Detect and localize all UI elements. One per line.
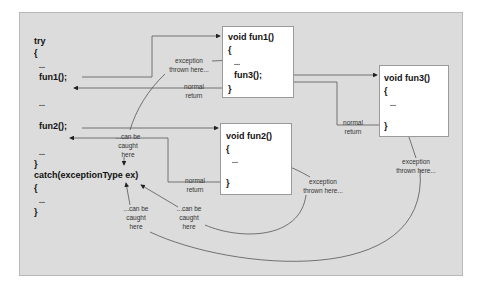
catch-ellipsis: ... <box>39 195 45 207</box>
fun3-call: fun3(); <box>234 69 262 81</box>
fun1-box: void fun1() { ... fun3(); } <box>222 26 294 98</box>
catch-open-brace: { <box>34 182 38 194</box>
can-be-caught-left-label: ...can be caught here <box>118 204 154 231</box>
fun3-close-brace: } <box>384 120 388 132</box>
fun1-open-brace: { <box>228 44 232 56</box>
exception-thrown-fun1-label: exception thrown here... <box>163 56 215 74</box>
fun3-signature: void fun3() <box>384 72 430 84</box>
fun3-box: void fun3() { ... } <box>379 65 449 137</box>
fun3-ellipsis: ... <box>390 98 396 110</box>
exception-thrown-fun3-label: exception thrown here... <box>390 157 442 175</box>
fun3-open-brace: { <box>384 85 388 97</box>
fun2-box: void fun2() { ... } <box>220 123 292 195</box>
normal-return-fun3-label: normal return <box>337 118 369 136</box>
normal-return-fun1-label: normal return <box>178 82 210 100</box>
try-keyword: try <box>34 35 46 47</box>
try-ellipsis-2: ... <box>39 98 45 110</box>
normal-return-fun2-label: normal return <box>179 176 211 194</box>
fun1-ellipsis: ... <box>234 57 240 69</box>
try-ellipsis-3: ... <box>39 147 45 159</box>
fun2-ellipsis: ... <box>232 155 238 167</box>
fun2-call: fun2(); <box>39 120 67 132</box>
catch-clause: catch(exceptionType ex) <box>34 169 138 181</box>
catch-close-brace: } <box>34 206 38 218</box>
fun1-close-brace: } <box>228 83 232 95</box>
fun2-signature: void fun2() <box>226 130 272 142</box>
fun2-close-brace: } <box>226 177 230 189</box>
fun1-signature: void fun1() <box>228 31 274 43</box>
fun2-open-brace: { <box>226 143 230 155</box>
exception-thrown-fun2-label: exception thrown here... <box>297 177 349 195</box>
can-be-caught-mid-label: ...can be caught here <box>171 204 207 231</box>
can-be-caught-top-label: ...can be caught here <box>110 132 146 159</box>
fun1-call: fun1(); <box>39 71 67 83</box>
try-open-brace: { <box>34 47 38 59</box>
